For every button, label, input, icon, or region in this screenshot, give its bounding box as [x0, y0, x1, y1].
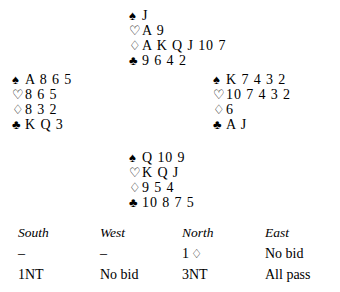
hand-north: ♠ J ♡ A 9 ♢ A K Q J 10 7 ♣ 9 6 4 2 [129, 8, 226, 68]
bid-east: No bid [265, 243, 335, 264]
bid-level: 1 [182, 246, 189, 261]
heart-icon: ♡ [213, 87, 226, 102]
hand-row: ♠ K 7 4 3 2 [213, 72, 291, 87]
spade-icon: ♠ [12, 72, 25, 87]
card-ranks: K 7 4 3 2 [226, 72, 286, 87]
diamond-icon: ♢ [213, 102, 226, 117]
spade-icon: ♠ [213, 72, 226, 87]
spade-icon: ♠ [129, 8, 142, 23]
card-ranks: Q 10 9 [142, 150, 186, 165]
hand-row: ♣ A J [213, 117, 291, 132]
hand-row: ♣ 10 8 7 5 [129, 195, 195, 210]
bid-north: 1♢ [182, 243, 265, 264]
hand-row: ♠ J [129, 8, 226, 23]
card-ranks: K Q J [142, 165, 179, 180]
bidding-header-north: North [182, 222, 265, 243]
diamond-icon: ♢ [129, 38, 142, 53]
card-ranks: A K Q J 10 7 [142, 38, 226, 53]
heart-icon: ♡ [12, 87, 25, 102]
bidding-row: 1NT No bid 3NT All pass [0, 264, 340, 285]
card-ranks: J [142, 8, 148, 23]
diamond-icon: ♢ [189, 247, 202, 261]
card-ranks: 9 5 4 [142, 180, 175, 195]
bid-level: 3NT [182, 267, 208, 282]
card-ranks: A J [226, 117, 247, 132]
card-ranks: A 8 6 5 [25, 72, 72, 87]
hand-row: ♠ A 8 6 5 [12, 72, 72, 87]
hand-row: ♢ 8 3 2 [12, 102, 72, 117]
bidding-header-row: South West North East [0, 222, 340, 243]
card-ranks: 10 8 7 5 [142, 195, 195, 210]
hand-row: ♢ 9 5 4 [129, 180, 195, 195]
heart-icon: ♡ [129, 23, 142, 38]
bid-east: All pass [265, 264, 335, 285]
card-ranks: K Q 3 [25, 117, 64, 132]
bid-north: 3NT [182, 264, 265, 285]
bid-south: – [18, 243, 100, 264]
hand-west: ♠ A 8 6 5 ♡ 8 6 5 ♢ 8 3 2 ♣ K Q 3 [12, 72, 72, 132]
hand-row: ♡ 10 7 4 3 2 [213, 87, 291, 102]
bidding-header-east: East [265, 222, 335, 243]
hand-row: ♣ 9 6 4 2 [129, 53, 226, 68]
club-icon: ♣ [129, 195, 142, 210]
card-ranks: 6 [226, 102, 234, 117]
card-ranks: A 9 [142, 23, 165, 38]
hand-south: ♠ Q 10 9 ♡ K Q J ♢ 9 5 4 ♣ 10 8 7 5 [129, 150, 195, 210]
bidding-header-south: South [18, 222, 100, 243]
club-icon: ♣ [129, 53, 142, 68]
hand-row: ♡ 8 6 5 [12, 87, 72, 102]
card-ranks: 10 7 4 3 2 [226, 87, 291, 102]
hand-row: ♣ K Q 3 [12, 117, 72, 132]
heart-icon: ♡ [129, 165, 142, 180]
bidding-header-west: West [100, 222, 182, 243]
spade-icon: ♠ [129, 150, 142, 165]
bidding-row: – – 1♢ No bid [0, 243, 340, 264]
hand-east: ♠ K 7 4 3 2 ♡ 10 7 4 3 2 ♢ 6 ♣ A J [213, 72, 291, 132]
hand-row: ♡ A 9 [129, 23, 226, 38]
hand-row: ♢ A K Q J 10 7 [129, 38, 226, 53]
card-ranks: 8 3 2 [25, 102, 58, 117]
card-ranks: 9 6 4 2 [142, 53, 187, 68]
diamond-icon: ♢ [129, 180, 142, 195]
bid-west: – [100, 243, 182, 264]
bid-south: 1NT [18, 264, 100, 285]
hand-row: ♠ Q 10 9 [129, 150, 195, 165]
hand-row: ♡ K Q J [129, 165, 195, 180]
hand-row: ♢ 6 [213, 102, 291, 117]
card-ranks: 8 6 5 [25, 87, 58, 102]
diamond-icon: ♢ [12, 102, 25, 117]
bid-west: No bid [100, 264, 182, 285]
club-icon: ♣ [12, 117, 25, 132]
club-icon: ♣ [213, 117, 226, 132]
bidding-table: South West North East – – 1♢ No bid 1NT … [0, 222, 340, 285]
bid-suit-icon [208, 268, 210, 282]
